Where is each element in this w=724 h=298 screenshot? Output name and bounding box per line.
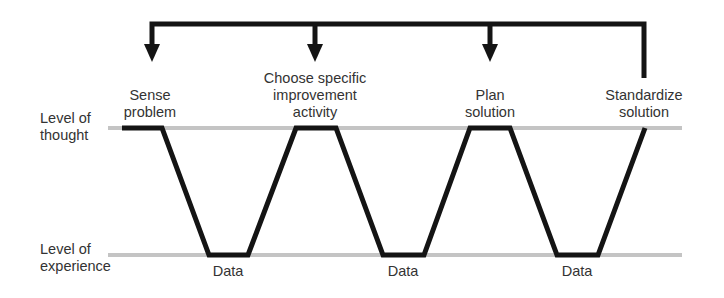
arrow-down-icon — [482, 44, 498, 62]
step-label-sense-problem: Sense problem — [112, 87, 188, 121]
arrow-down-icon — [144, 44, 160, 62]
data-label: Data — [383, 263, 423, 280]
thought-experience-path — [122, 128, 645, 255]
data-label: Data — [557, 263, 597, 280]
step-label-standardize-solution: Standardize solution — [594, 87, 694, 121]
level-thought-label: Level of thought — [40, 110, 91, 144]
feedback-bracket — [152, 24, 644, 78]
step-label-plan-solution: Plan solution — [455, 87, 525, 121]
arrow-down-icon — [307, 44, 323, 62]
level-experience-label: Level of experience — [40, 241, 111, 275]
data-label: Data — [208, 263, 248, 280]
step-label-choose-activity: Choose specific improvement activity — [250, 70, 380, 121]
